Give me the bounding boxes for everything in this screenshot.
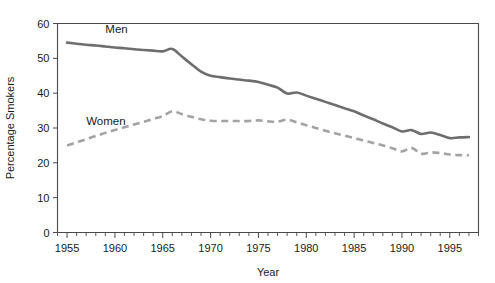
x-tick-label: 1965 (151, 242, 175, 254)
x-tick-label: 1960 (103, 242, 127, 254)
x-tick-label: 1955 (55, 242, 79, 254)
x-axis-ticks: 195519601965197019751980198519901995 (55, 233, 462, 254)
x-tick-label: 1970 (198, 242, 222, 254)
y-tick-label: 10 (37, 192, 49, 204)
y-tick-label: 40 (37, 87, 49, 99)
y-tick-label: 60 (37, 18, 49, 30)
series-annotations: MenWomen (86, 23, 128, 126)
x-tick-label: 1980 (294, 242, 318, 254)
series-line-men (67, 43, 469, 139)
series-label-men: Men (105, 23, 127, 35)
y-tick-label: 30 (37, 122, 49, 134)
y-tick-label: 20 (37, 157, 49, 169)
series-label-women: Women (86, 115, 125, 127)
series-line-women (67, 111, 469, 155)
y-axis-ticks: 0102030405060 (37, 18, 57, 239)
plot-border (58, 24, 479, 233)
x-axis-title: Year (257, 266, 280, 278)
y-tick-label: 0 (43, 227, 49, 239)
y-axis-title: Percentage Smokers (4, 76, 16, 179)
x-tick-label: 1985 (342, 242, 366, 254)
x-tick-label: 1975 (246, 242, 270, 254)
y-tick-label: 50 (37, 52, 49, 64)
smoking-prevalence-chart: 0102030405060 19551960196519701975198019… (0, 0, 495, 283)
series-group (67, 43, 469, 156)
x-tick-label: 1990 (390, 242, 414, 254)
x-tick-label: 1995 (438, 242, 462, 254)
plot-frame (58, 24, 479, 233)
chart-canvas: 0102030405060 19551960196519701975198019… (0, 0, 495, 283)
